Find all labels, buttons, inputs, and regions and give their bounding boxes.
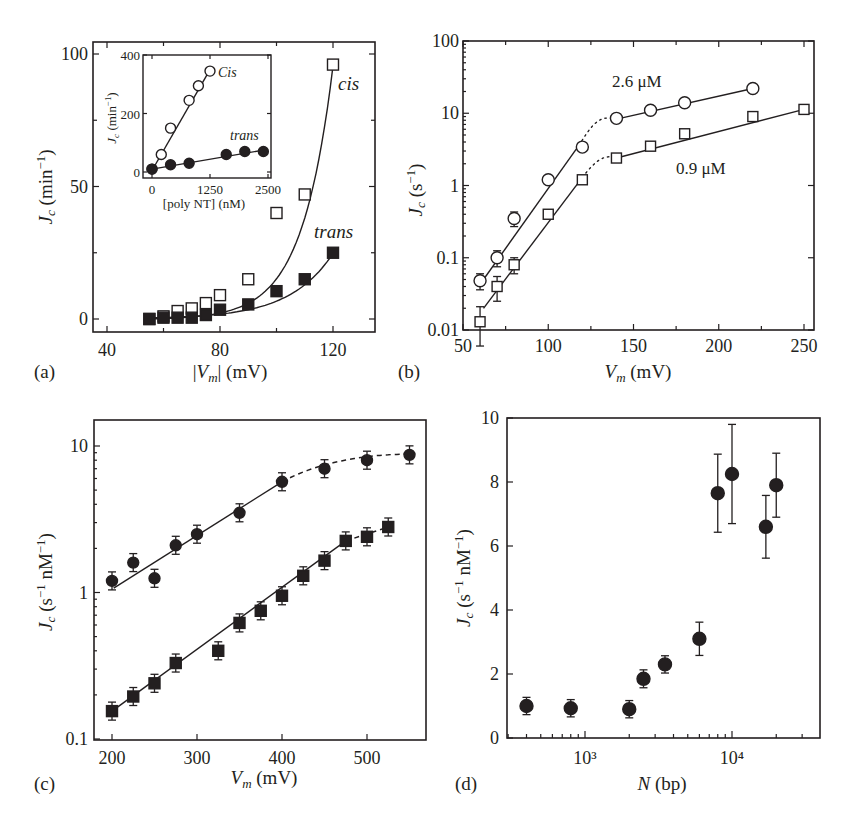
panel-label-b: (b) [398,361,420,383]
data-point [234,617,245,628]
data-point [128,691,139,702]
data-point [200,310,211,321]
x-tick-label: 400 [269,748,296,768]
fit-line [282,454,410,482]
data-point [623,703,636,716]
y-tick-label: 0.1 [437,248,460,268]
data-point [128,557,139,568]
figure-canvas: 4080120050100cistrans|Vm| (mV)Jc (min−1)… [0,0,846,824]
y-tick-label: 6 [490,536,499,556]
data-point [576,141,588,153]
x-tick-label: 150 [620,336,647,356]
data-point [340,535,351,546]
y-axis-label: Jc (s−1 nM−1) [451,529,476,627]
annotation-0.9uM: 0.9 μM [676,159,726,178]
data-point [509,260,519,270]
y-axis-label: Jc (s−1) [403,164,428,217]
data-point [475,317,485,327]
x-tick-label: 200 [705,336,732,356]
y-tick-label: 1 [450,176,459,196]
data-point [726,468,739,481]
annotation-trans: trans [314,221,353,242]
y-tick-label: 100 [432,31,459,51]
x-axis-label: |Vm| (mV) [193,361,268,385]
data-point [215,290,226,301]
data-point [298,570,309,581]
data-point [748,112,758,122]
data-point [170,540,181,551]
inset-x-axis-label: [poly NT] (nM) [163,196,245,211]
panel-a: 4080120050100cistrans|Vm| (mV)Jc (min−1)… [33,42,375,385]
data-point [543,209,553,219]
annotation-2.6uM: 2.6 μM [612,72,662,91]
data-point [258,147,268,157]
x-axis-label: Vm (mV) [231,767,298,791]
data-point [271,208,282,219]
y-tick-label: 1 [79,583,88,603]
data-point [637,672,650,685]
x-tick-label: 300 [184,748,211,768]
plot-frame [94,420,426,740]
data-point [184,95,194,105]
inset-y-tick-label: 0 [134,165,141,180]
data-point [147,164,157,174]
data-point [243,299,254,310]
y-tick-label: 100 [61,44,88,64]
inset-annotation-cis: Cis [218,65,237,80]
data-point [221,149,231,159]
y-tick-label: 8 [490,472,499,492]
data-point [215,304,226,315]
data-point [645,104,657,116]
panel-b: 501001502002500.010.11101002.6 μM0.9 μMV… [403,31,818,385]
x-tick-label: 120 [320,340,347,360]
x-tick-label: 100 [535,336,562,356]
inset-y-tick-label: 400 [121,48,141,63]
x-tick-label: 10⁴ [720,748,744,768]
data-point [205,66,215,76]
data-point [149,678,160,689]
panel-label-a: (a) [34,361,55,383]
panel-label-d: (d) [455,773,477,795]
data-point [328,59,339,70]
data-point [693,632,706,645]
data-point [508,212,520,224]
x-tick-label: 80 [211,340,229,360]
data-point [542,174,554,186]
data-point [149,573,160,584]
y-tick-label: 0 [79,309,88,329]
data-point [362,531,373,542]
y-axis-label: Jc (min−1) [103,92,121,143]
data-point [491,252,503,264]
data-point [156,149,166,159]
y-tick-label: 0.1 [66,729,89,749]
data-point [362,455,373,466]
x-tick-label: 10³ [573,748,597,768]
annotation-cis: cis [338,73,359,94]
data-point [610,112,622,124]
data-point [747,83,759,95]
data-point [193,81,203,91]
data-point [319,555,330,566]
data-point [474,275,486,287]
y-tick-label: 10 [481,408,499,428]
x-tick-label: 40 [98,340,116,360]
data-point [144,314,155,325]
y-tick-label: 50 [70,177,88,197]
panel-label-c: (c) [34,773,55,795]
data-point [166,160,176,170]
data-point [255,605,266,616]
inset-y-tick-label: 200 [121,107,141,122]
data-point [172,312,183,323]
panel-d: 10³10⁴0246810N (bp)Jc (s−1 nM−1) [451,408,820,795]
figure: 4080120050100cistrans|Vm| (mV)Jc (min−1)… [0,0,846,824]
data-point [158,312,169,323]
data-point [277,590,288,601]
y-tick-label: 10 [441,103,459,123]
data-point [770,479,783,492]
data-point [243,274,254,285]
data-point [170,658,181,669]
data-point [192,529,203,540]
data-point [404,449,415,460]
data-point [200,298,211,309]
panel-c: 2003004005000.1110Vm (mV)Jc (s−1 nM−1) [33,420,426,791]
